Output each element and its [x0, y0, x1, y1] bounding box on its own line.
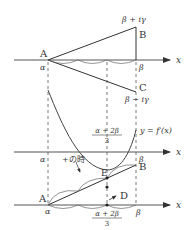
frac-numerator: α + 2β [95, 210, 119, 218]
label-alpha: α [40, 155, 46, 164]
segment-AC [48, 60, 136, 92]
point-D [105, 203, 108, 206]
label-x: x [176, 55, 181, 65]
dashed-guides [48, 62, 136, 205]
label-curve: y = f′(x) [139, 126, 172, 135]
middle-section: α β x y = f′(x) α + 2β 3 [14, 90, 181, 170]
bottom-section: +の時 E D B A α β x α + 2β 3 [14, 155, 181, 228]
label-x: x [176, 200, 181, 210]
frac-denominator: 3 [105, 137, 109, 145]
label-A: A [38, 193, 47, 204]
label-B: B [139, 161, 146, 172]
point-mid [105, 185, 108, 188]
label-A: A [39, 48, 48, 59]
label-alpha: α [45, 207, 51, 216]
label-x: x [176, 147, 181, 157]
annotation-plus: +の時 [62, 155, 85, 164]
axis-arcs [48, 205, 136, 209]
brace-arcs [48, 60, 136, 64]
segment-AB [48, 27, 136, 60]
diagram-canvas: A α β B β + iγ C β − iγ x α β x y = f′(x… [0, 0, 192, 230]
label-C: C [139, 82, 147, 93]
label-D: D [120, 190, 128, 201]
frac-numerator: α + 2β [95, 127, 119, 135]
label-beta: β [135, 208, 141, 217]
label-E: E [101, 168, 108, 178]
label-alpha: α [40, 63, 46, 72]
frac-denominator: 3 [105, 220, 109, 228]
label-C-value: β − iγ [124, 95, 149, 104]
label-B-value: β + iγ [121, 15, 146, 24]
top-section: A α β B β + iγ C β − iγ x [14, 15, 181, 104]
arrow-to-D [109, 196, 116, 200]
label-beta: β [138, 63, 144, 72]
label-B: B [139, 29, 146, 40]
